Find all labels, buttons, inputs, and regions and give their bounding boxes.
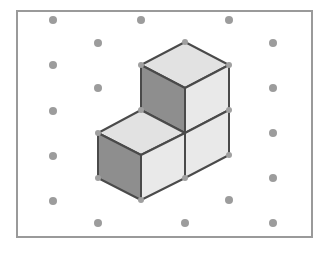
vertex-dot [138,62,144,68]
vertex-dot [182,39,188,45]
grid-dot [225,16,233,24]
grid-dot [225,196,233,204]
grid-dot [94,84,102,92]
grid-dot [49,16,57,24]
vertex-dot [138,197,144,203]
grid-dot [269,219,277,227]
grid-dot [137,16,145,24]
grid-dot [49,197,57,205]
vertex-dot [138,107,144,113]
vertex-dot [226,152,232,158]
vertex-dot [226,107,232,113]
grid-dot [49,107,57,115]
grid-dot [269,129,277,137]
grid-dot [94,219,102,227]
grid-dot [49,61,57,69]
vertex-dot [95,175,101,181]
grid-dot [181,219,189,227]
vertex-dot [226,62,232,68]
vertex-dot [95,130,101,136]
grid-dot [94,39,102,47]
grid-dot [269,39,277,47]
vertex-dot [182,175,188,181]
grid-dot [269,174,277,182]
isometric-cube-diagram [0,0,322,256]
grid-dot [269,84,277,92]
grid-dot [49,152,57,160]
